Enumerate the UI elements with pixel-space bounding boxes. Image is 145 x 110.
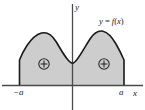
x-axis-name-label: x [133,89,137,98]
y-axis-name-label: y [75,3,79,12]
curve-label-paren-close: ) [121,16,124,26]
x-axis-tick-label-negative-a: −a [13,88,24,97]
shaded-area-under-curve [20,31,125,85]
x-axis-tick-label-positive-a: a [119,88,124,97]
curve-label-equals: = [103,16,112,26]
function-graph-figure: −a a x y y = f(x) [0,0,145,110]
curve-equation-label: y = f(x) [99,17,124,26]
